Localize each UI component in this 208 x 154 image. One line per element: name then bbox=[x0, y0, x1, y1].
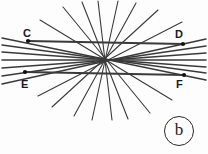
concurrent-lines-group bbox=[2, 1, 206, 120]
segment-C-D bbox=[28, 41, 183, 44]
point-label-c: C bbox=[23, 28, 31, 39]
point-label-e: E bbox=[21, 79, 28, 90]
panel-label-text: b bbox=[175, 120, 184, 140]
marked-point-f bbox=[182, 73, 186, 77]
marked-point-d bbox=[181, 42, 185, 46]
panel-label-circle: b bbox=[164, 116, 194, 146]
point-label-f: F bbox=[176, 79, 183, 90]
marked-point-c bbox=[26, 39, 30, 43]
point-label-d: D bbox=[175, 29, 183, 40]
line-15 bbox=[38, 22, 182, 96]
line-14 bbox=[52, 10, 158, 107]
marked-point-e bbox=[23, 70, 27, 74]
figure-canvas: C D E F b bbox=[0, 0, 208, 154]
